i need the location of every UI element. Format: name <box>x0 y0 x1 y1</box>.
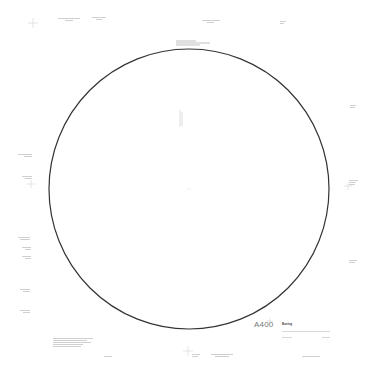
annotation-bottom-notes <box>53 337 93 348</box>
part-label: A400 <box>254 320 273 329</box>
annotation-left-1 <box>18 153 32 158</box>
annotation-bottom-3 <box>211 353 233 358</box>
registration-marks <box>27 18 352 356</box>
annotation-left-6 <box>20 288 30 293</box>
annotation-bottom-2 <box>192 353 200 358</box>
annotation-left-4 <box>22 246 31 251</box>
drawing-canvas <box>0 0 379 377</box>
annotation-bottom-4 <box>302 355 320 358</box>
brand-mark: Boeing <box>282 322 292 326</box>
annotation-left-2 <box>22 175 32 180</box>
annotation-top-right <box>280 20 286 25</box>
annotation-right-1 <box>350 104 356 109</box>
annotation-top-left-1 <box>58 17 80 22</box>
annotation-right-2 <box>349 179 358 186</box>
internal-note <box>180 110 182 127</box>
annotation-left-7 <box>20 309 30 314</box>
annotation-left-3 <box>18 236 30 241</box>
title-block-line <box>282 331 330 332</box>
annotation-top-center <box>202 19 220 24</box>
annotation-bottom-1 <box>104 355 112 358</box>
annotation-top-left-2 <box>92 16 106 21</box>
annotation-left-5 <box>22 255 31 260</box>
title-block-field <box>282 337 292 338</box>
title-block-field-value <box>322 337 330 338</box>
circle-top-note <box>176 41 210 45</box>
drawing-sheet: A400 Boeing <box>0 0 379 377</box>
annotation-right-3 <box>349 259 357 264</box>
